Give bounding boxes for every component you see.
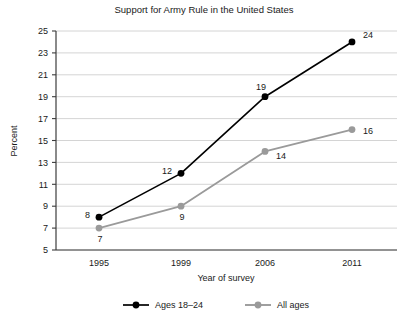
data-point: [96, 225, 103, 232]
legend-swatch-marker: [255, 302, 262, 309]
line-chart: Support for Army Rule in the United Stat…: [0, 0, 409, 324]
data-point: [349, 39, 356, 46]
y-axis-tick-label: 23: [38, 48, 48, 58]
y-axis-tick-label: 19: [38, 92, 48, 102]
data-point: [349, 126, 356, 133]
x-axis-tick-label: 1999: [171, 258, 191, 268]
data-point-label: 12: [162, 166, 172, 176]
y-axis-tick-label: 13: [38, 158, 48, 168]
data-point: [262, 93, 269, 100]
legend-swatch-marker: [133, 302, 140, 309]
x-axis-tick-labels: 1995199920062011: [89, 258, 362, 268]
series-line-ages-18-24: [99, 42, 352, 217]
series-line-all-ages: [99, 130, 352, 229]
x-axis-tick-label: 2011: [342, 258, 361, 268]
x-axis-tick-label: 1995: [89, 258, 109, 268]
data-point: [178, 203, 185, 210]
y-axis-tick-label: 9: [43, 201, 48, 211]
y-axis-tick-label: 7: [43, 223, 48, 233]
legend-label: Ages 18–24: [155, 300, 203, 310]
y-axis-tick-label: 21: [38, 70, 48, 80]
y-axis-tick-label: 17: [38, 114, 48, 124]
data-point-label: 16: [363, 126, 373, 136]
y-axis-tick-label: 15: [38, 136, 48, 146]
series-layer: [96, 39, 356, 232]
y-axis-tick-labels: 5791113151719212325: [38, 26, 48, 255]
data-point-label: 19: [256, 82, 266, 92]
data-point: [178, 170, 185, 177]
x-axis-title: Year of survey: [197, 273, 255, 283]
data-point-label: 7: [97, 234, 102, 244]
data-point-label: 24: [363, 30, 373, 40]
data-point-label: 14: [276, 151, 286, 161]
chart-title: Support for Army Rule in the United Stat…: [114, 4, 293, 15]
data-point: [262, 148, 269, 155]
y-axis-tick-label: 11: [39, 180, 48, 190]
data-point-label: 8: [85, 210, 90, 220]
data-point-labels: 8121924791416: [85, 30, 373, 244]
x-axis-tick-label: 2006: [255, 258, 275, 268]
y-axis-tick-label: 25: [38, 26, 48, 36]
data-point: [96, 214, 103, 221]
legend-label: All ages: [277, 300, 310, 310]
chart-legend: Ages 18–24All ages: [123, 300, 310, 310]
data-point-label: 9: [179, 212, 184, 222]
chart-container: Support for Army Rule in the United Stat…: [0, 0, 409, 324]
y-axis-title: Percent: [9, 125, 19, 157]
y-axis-tick-label: 5: [43, 245, 48, 255]
gridlines: [56, 31, 397, 250]
